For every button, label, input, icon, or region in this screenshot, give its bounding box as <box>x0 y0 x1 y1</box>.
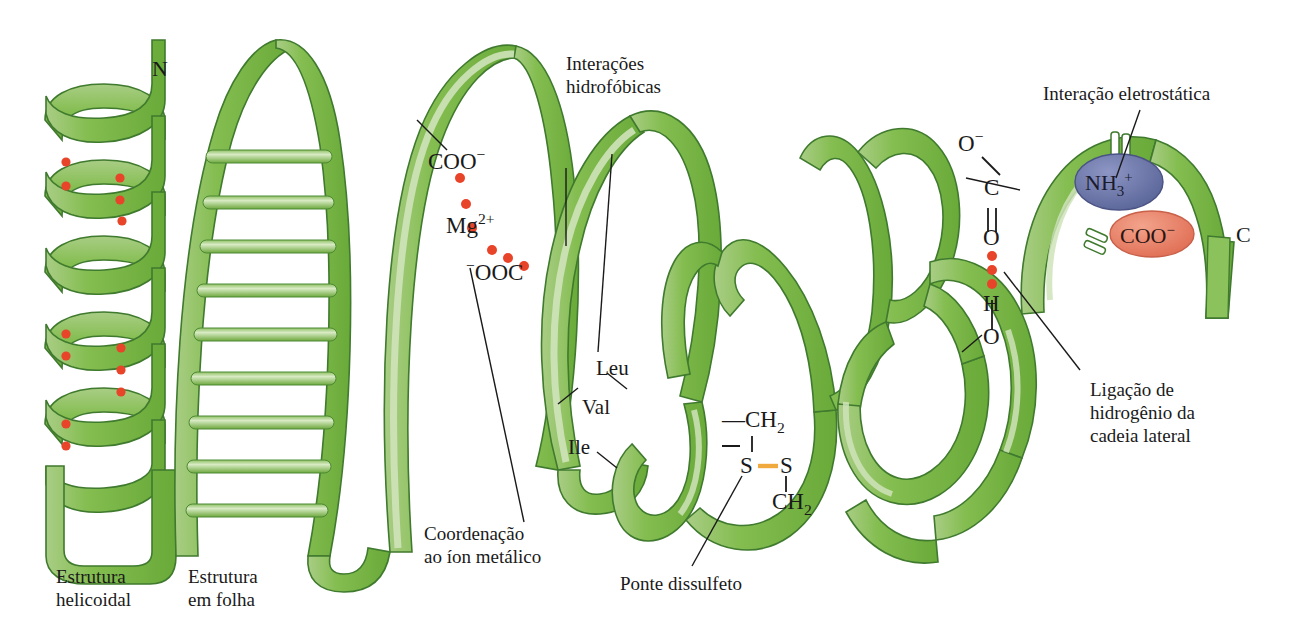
protein-structure-diagram: N C Estrutura helicoidal Estrutura em fo… <box>0 0 1307 644</box>
lower-carboxylate-label: −OOC <box>466 256 523 287</box>
caption-side-chain-hbond-line1: Ligação de <box>1090 378 1195 401</box>
lower-carboxylate-charge: − <box>466 257 475 274</box>
residue-label-leu: Leu <box>596 356 629 382</box>
beta-sheet <box>175 40 390 592</box>
nh3-charge: + <box>1124 169 1132 185</box>
caption-helical-structure: Estrutura helicoidal <box>56 565 131 611</box>
disulfide-bottom-ch2-sub: 2 <box>804 501 812 518</box>
nh3-symbol: NH <box>1085 170 1117 195</box>
c-terminus-label: C <box>1236 222 1251 249</box>
caption-side-chain-hbond: Ligação de hidrogênio da cadeia lateral <box>1090 378 1195 448</box>
upper-carboxylate-label: COO− <box>428 145 485 176</box>
caption-electrostatic-interaction: Interação eletrostática <box>1043 82 1210 105</box>
residue-label-val: Val <box>582 395 610 421</box>
disulfide-bottom-group: CH2 <box>772 488 812 519</box>
nh3-cation-label: NH3+ <box>1085 168 1133 200</box>
coo-symbol: COO <box>1120 223 1166 248</box>
residue-label-ile: Ile <box>568 435 590 461</box>
disulfide-sulfur-right: S <box>780 452 793 480</box>
alpha-helix-ribbon <box>45 40 176 584</box>
lower-carboxylate-text: OOC <box>475 260 524 285</box>
disulfide-bottom-ch2: CH <box>772 489 804 514</box>
caption-hydrophobic-line1: Interações <box>566 52 661 75</box>
disulfide-top-ch2-sub: 2 <box>777 419 785 436</box>
caption-side-chain-hbond-line2: hidrogênio da <box>1090 401 1195 424</box>
hbond-carbonyl-oxygen: O <box>983 224 1000 252</box>
hbond-oxygen-anion-symbol: O <box>958 131 975 156</box>
caption-metal-coordination-line2: ao íon metálico <box>424 545 541 568</box>
caption-disulfide-bridge: Ponte dissulfeto <box>620 572 742 595</box>
disulfide-top-dash: — <box>722 407 745 432</box>
hbond-oxygen-anion: O− <box>958 127 983 158</box>
hbond-carbon: C <box>984 174 999 202</box>
coo-anion-label: COO− <box>1120 221 1175 250</box>
disulfide-sulfur-left: S <box>740 452 753 480</box>
upper-carboxylate-text: COO <box>428 149 477 174</box>
n-terminus-label: N <box>152 56 168 83</box>
side-chain-hydrogen-bond-dots <box>987 251 997 289</box>
caption-sheet-structure-line1: Estrutura <box>188 565 258 588</box>
caption-helical-structure-line1: Estrutura <box>56 565 131 588</box>
disulfide-top-group: —CH2 <box>722 406 785 437</box>
caption-side-chain-hbond-line3: cadeia lateral <box>1090 424 1195 447</box>
disulfide-bond-bonds <box>722 436 786 492</box>
caption-hydrophobic-line2: hidrofóbicas <box>566 75 661 98</box>
hbond-hydrogen: H <box>983 290 1000 318</box>
upper-carboxylate-charge: − <box>477 146 486 163</box>
coo-charge: − <box>1166 222 1174 238</box>
caption-hydrophobic-interactions: Interações hidrofóbicas <box>566 52 661 98</box>
caption-metal-coordination: Coordenação ao íon metálico <box>424 522 541 568</box>
disulfide-top-ch2: CH <box>745 407 777 432</box>
hbond-oxygen-anion-charge: − <box>975 128 984 145</box>
beta-sheet-hydrogen-bond-rungs <box>186 150 337 517</box>
caption-metal-coordination-line1: Coordenação <box>424 522 541 545</box>
caption-sheet-structure: Estrutura em folha <box>188 565 258 611</box>
right-loops <box>800 129 1036 563</box>
caption-sheet-structure-line2: em folha <box>188 588 258 611</box>
magnesium-symbol: Mg <box>446 213 478 238</box>
caption-helical-structure-line2: helicoidal <box>56 588 131 611</box>
magnesium-ion-label: Mg2+ <box>446 209 495 240</box>
hbond-hydroxyl-oxygen: O <box>983 323 1000 351</box>
magnesium-charge: 2+ <box>478 210 495 227</box>
nh3-sub: 3 <box>1117 183 1124 199</box>
